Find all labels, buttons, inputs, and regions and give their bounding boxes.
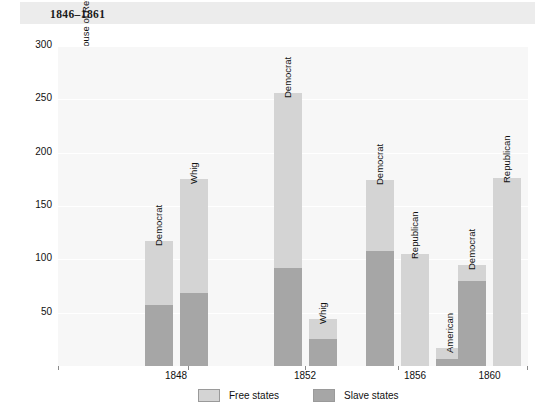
legend-item[interactable]: Free states (198, 386, 279, 404)
y-axis-tick-labels: 50100150200250300 (10, 46, 52, 366)
bar[interactable] (309, 319, 337, 366)
bar-label: Democrat (282, 57, 293, 98)
y-axis-tick-label: 250 (12, 92, 52, 103)
bar-label: Democrat (153, 205, 164, 246)
y-axis-tick-label: 200 (12, 146, 52, 157)
title-band: 1846–1861 (20, 2, 535, 24)
legend-label: Slave states (344, 390, 398, 401)
bar-label: American (444, 313, 455, 353)
bar-segment-slave-states (366, 251, 394, 366)
y-axis-tick-label: 300 (12, 39, 52, 50)
bar[interactable] (274, 93, 302, 366)
legend-label: Free states (229, 390, 279, 401)
y-axis-tick-label: 100 (12, 252, 52, 263)
bar-segment-free-states (366, 180, 394, 250)
x-axis-tick-label: 1856 (404, 370, 426, 381)
bar-segment-free-states (493, 178, 521, 366)
gridline (58, 46, 528, 47)
bar-segment-free-states (180, 179, 208, 293)
legend-item[interactable]: Slave states (313, 386, 398, 404)
bar-label: Democrat (374, 144, 385, 185)
legend-swatch (198, 389, 220, 402)
bar[interactable] (493, 178, 521, 366)
chart-figure: 1846–1861 Party members in House of Repr… (0, 0, 535, 410)
bar-label: Republican (501, 136, 512, 184)
bar-segment-free-states (145, 241, 173, 305)
page-title: 1846–1861 (50, 8, 105, 20)
plot-area: DemocratWhigDemocratWhigDemocratRepublic… (58, 46, 528, 366)
bar-label: Republican (409, 211, 420, 259)
bar-segment-slave-states (458, 281, 486, 366)
x-axis-tick-label: 1860 (478, 370, 500, 381)
bar-segment-free-states (274, 93, 302, 268)
bar[interactable] (401, 254, 429, 366)
bar-segment-free-states (401, 254, 429, 366)
y-axis-tick-label: 150 (12, 199, 52, 210)
bar-segment-slave-states (309, 339, 337, 366)
bar[interactable] (366, 180, 394, 366)
bar[interactable] (145, 241, 173, 366)
bar[interactable] (458, 265, 486, 366)
x-axis-tick-labels: 1848185218561860 (58, 368, 528, 388)
bar-segment-slave-states (145, 305, 173, 366)
bar[interactable] (180, 179, 208, 366)
x-axis-tick-label: 1852 (294, 370, 316, 381)
bar-label: Whig (188, 163, 199, 185)
bar-segment-slave-states (274, 268, 302, 366)
y-axis-tick-label: 50 (12, 306, 52, 317)
chart-legend: Free statesSlave states (58, 386, 528, 406)
legend-swatch (313, 389, 335, 402)
x-axis-tick-label: 1848 (165, 370, 187, 381)
bar-label: Whig (317, 302, 328, 324)
bar-segment-slave-states (180, 293, 208, 366)
bar-label: Democrat (466, 228, 477, 269)
